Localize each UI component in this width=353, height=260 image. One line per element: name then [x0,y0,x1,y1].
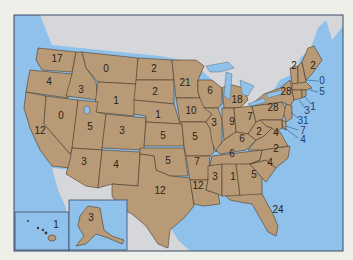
label-ms: 3 [212,171,218,182]
label-wv: 2 [256,126,262,137]
label-ak: 3 [88,212,94,223]
label-al: 1 [230,171,236,182]
label-tn: 6 [229,148,235,159]
label-nc: 2 [273,143,279,154]
label-il: 3 [211,117,217,128]
label-ar: 7 [194,156,200,167]
label-sc: 4 [267,157,273,168]
label-mi: 18 [231,94,243,105]
us-state-map: 17 4 12 0 3 0 1 5 3 3 4 2 2 1 5 5 12 21 … [0,0,353,260]
label-ne: 1 [155,109,161,120]
label-ut: 5 [87,121,93,132]
label-vt: 2 [291,60,297,71]
label-hi: 1 [53,219,59,230]
label-nh: 0 [319,75,325,86]
state-ct[interactable] [292,90,302,100]
label-la: 12 [192,180,204,191]
label-ma: 5 [319,86,325,97]
label-nv: 0 [58,110,64,121]
label-ia: 10 [185,105,197,116]
label-or: 4 [46,76,52,87]
label-in: 9 [229,116,235,127]
inset-alaska [69,200,127,250]
label-me: 2 [310,60,316,71]
label-mn: 21 [179,77,191,88]
label-ri: 1 [310,101,316,112]
label-ga: 5 [251,169,257,180]
label-az: 3 [81,156,87,167]
label-ny: 28 [280,86,292,97]
inset-hawaii [15,212,69,250]
state-nm[interactable] [98,150,140,188]
label-id: 3 [78,84,84,95]
label-md: 4 [300,134,306,145]
label-co: 3 [119,125,125,136]
label-nd: 2 [151,63,157,74]
label-mo: 5 [192,131,198,142]
label-oh: 7 [247,111,253,122]
label-pa: 28 [267,102,279,113]
label-va: 4 [273,127,279,138]
label-sd: 2 [152,86,158,97]
label-nm: 4 [113,159,119,170]
label-ks: 5 [160,130,166,141]
label-wy: 1 [113,95,119,106]
label-tx: 12 [154,185,166,196]
label-wa: 17 [51,53,63,64]
label-ok: 5 [165,155,171,166]
label-wi: 6 [207,85,213,96]
label-ca: 12 [34,125,46,136]
great-salt-lake [84,106,90,114]
label-mt: 0 [103,63,109,74]
label-fl: 24 [272,204,284,215]
label-ky: 6 [239,133,245,144]
